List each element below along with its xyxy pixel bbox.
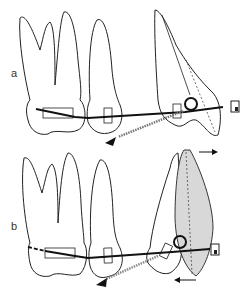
panel-b: b (0, 148, 252, 296)
panel-a: a (0, 0, 252, 148)
diagram-panel-b (0, 148, 252, 296)
diagram-panel-a (0, 0, 252, 148)
arrow-left-icon (174, 277, 196, 283)
arrow-right-icon (199, 149, 218, 155)
